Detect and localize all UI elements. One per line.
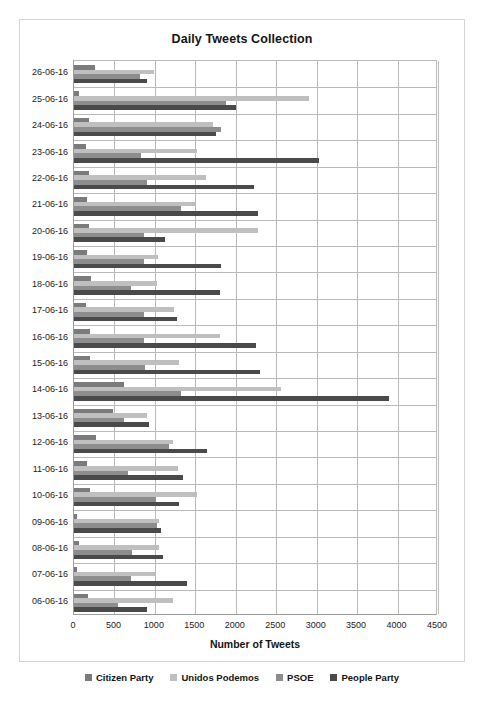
x-axis-tick-label: 1500 bbox=[184, 620, 204, 630]
bar bbox=[74, 79, 147, 84]
y-axis-tick-label: 18-06-16 bbox=[18, 279, 68, 289]
y-axis-tick-label: 25-06-16 bbox=[18, 94, 68, 104]
y-axis-tick-label: 09-06-16 bbox=[18, 517, 68, 527]
legend-label: Unidos Podemos bbox=[181, 672, 259, 683]
bar bbox=[74, 158, 319, 163]
legend-swatch-icon bbox=[276, 674, 283, 681]
legend-label: Citizen Party bbox=[96, 672, 154, 683]
gridline-vertical bbox=[438, 61, 439, 614]
bar bbox=[74, 343, 256, 348]
x-axis-tick-label: 4500 bbox=[427, 620, 447, 630]
bar-group bbox=[74, 87, 436, 113]
bar-group bbox=[74, 325, 436, 351]
bar-group bbox=[74, 167, 436, 193]
legend-label: PSOE bbox=[287, 672, 313, 683]
legend-item[interactable]: People Party bbox=[330, 672, 399, 683]
y-axis-tick-label: 21-06-16 bbox=[18, 199, 68, 209]
y-axis-tick-label: 13-06-16 bbox=[18, 411, 68, 421]
bar-group bbox=[74, 140, 436, 166]
bar bbox=[74, 290, 220, 295]
y-axis-tick-label: 16-06-16 bbox=[18, 332, 68, 342]
bar-group bbox=[74, 510, 436, 536]
chart-legend: Citizen PartyUnidos PodemosPSOEPeople Pa… bbox=[19, 672, 465, 683]
chart-card: Daily Tweets Collection 26-06-1625-06-16… bbox=[19, 19, 465, 662]
bar-group bbox=[74, 405, 436, 431]
bar bbox=[74, 264, 221, 269]
legend-item[interactable]: Citizen Party bbox=[85, 672, 154, 683]
bar-group bbox=[74, 61, 436, 87]
bar bbox=[74, 581, 187, 586]
y-axis-tick-label: 19-06-16 bbox=[18, 252, 68, 262]
y-axis-tick-label: 23-06-16 bbox=[18, 147, 68, 157]
legend-swatch-icon bbox=[170, 674, 177, 681]
bar bbox=[74, 475, 183, 480]
y-axis-tick-label: 12-06-16 bbox=[18, 437, 68, 447]
y-axis-tick-label: 14-06-16 bbox=[18, 384, 68, 394]
x-axis-title: Number of Tweets bbox=[73, 638, 437, 650]
bar-group bbox=[74, 193, 436, 219]
legend-swatch-icon bbox=[330, 674, 337, 681]
bar-group bbox=[74, 378, 436, 404]
bar-group bbox=[74, 220, 436, 246]
y-axis-tick-label: 26-06-16 bbox=[18, 67, 68, 77]
x-axis-tick-label: 1000 bbox=[144, 620, 164, 630]
bar bbox=[74, 185, 254, 190]
plot-area bbox=[73, 60, 437, 615]
legend-label: People Party bbox=[341, 672, 399, 683]
legend-item[interactable]: PSOE bbox=[276, 672, 313, 683]
bar-group bbox=[74, 484, 436, 510]
bar bbox=[74, 607, 147, 612]
bar-group bbox=[74, 272, 436, 298]
y-axis-tick-label: 24-06-16 bbox=[18, 120, 68, 130]
y-axis-tick-label: 11-06-16 bbox=[18, 464, 68, 474]
bar-group bbox=[74, 114, 436, 140]
y-axis-tick-label: 07-06-16 bbox=[18, 569, 68, 579]
plot-wrapper: 26-06-1625-06-1624-06-1623-06-1622-06-16… bbox=[20, 20, 466, 663]
y-axis-tick-label: 20-06-16 bbox=[18, 226, 68, 236]
bar bbox=[74, 132, 216, 137]
bar-group bbox=[74, 590, 436, 616]
bar bbox=[74, 555, 163, 560]
legend-swatch-icon bbox=[85, 674, 92, 681]
y-axis-tick-label: 08-06-16 bbox=[18, 543, 68, 553]
x-axis-tick-label: 500 bbox=[106, 620, 121, 630]
legend-item[interactable]: Unidos Podemos bbox=[170, 672, 259, 683]
y-axis-tick-label: 06-06-16 bbox=[18, 596, 68, 606]
bar-group bbox=[74, 537, 436, 563]
bar bbox=[74, 237, 165, 242]
bar bbox=[74, 105, 236, 110]
bar-group bbox=[74, 299, 436, 325]
bar-group bbox=[74, 246, 436, 272]
y-axis-tick-label: 17-06-16 bbox=[18, 305, 68, 315]
bar bbox=[74, 317, 177, 322]
bar-group bbox=[74, 352, 436, 378]
bar bbox=[74, 502, 179, 507]
bar bbox=[74, 528, 161, 533]
bar-group bbox=[74, 457, 436, 483]
x-axis-tick-label: 4000 bbox=[387, 620, 407, 630]
y-axis-labels: 26-06-1625-06-1624-06-1623-06-1622-06-16… bbox=[20, 60, 68, 615]
x-axis-tick-label: 2000 bbox=[225, 620, 245, 630]
bar bbox=[74, 370, 260, 375]
bar bbox=[74, 422, 149, 427]
bar bbox=[74, 211, 258, 216]
bar bbox=[74, 396, 389, 401]
y-axis-tick-label: 22-06-16 bbox=[18, 173, 68, 183]
bar-group bbox=[74, 563, 436, 589]
bar bbox=[74, 449, 207, 454]
x-axis-tick-label: 0 bbox=[70, 620, 75, 630]
y-axis-tick-label: 10-06-16 bbox=[18, 490, 68, 500]
y-axis-tick-label: 15-06-16 bbox=[18, 358, 68, 368]
x-axis-tick-label: 3500 bbox=[346, 620, 366, 630]
bar-group bbox=[74, 431, 436, 457]
x-axis-tick-label: 2500 bbox=[265, 620, 285, 630]
x-axis-tick-label: 3000 bbox=[306, 620, 326, 630]
